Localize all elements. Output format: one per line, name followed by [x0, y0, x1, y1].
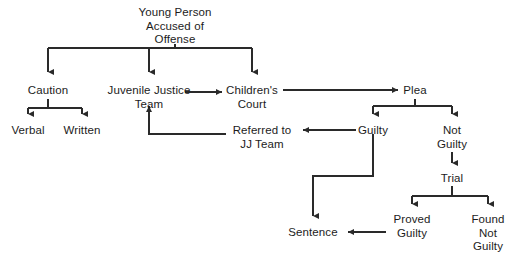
- node-juvenile-justice-team: Juvenile Justice Team: [108, 84, 191, 111]
- node-found-not-guilty: Found Not Guilty: [471, 213, 504, 254]
- node-guilty: Guilty: [358, 124, 388, 138]
- node-young-person-accused: Young Person Accused of Offense: [138, 6, 211, 47]
- node-caution: Caution: [28, 84, 68, 98]
- node-written: Written: [64, 124, 101, 138]
- node-plea: Plea: [403, 84, 426, 98]
- node-trial: Trial: [441, 172, 463, 186]
- node-verbal: Verbal: [11, 124, 44, 138]
- flowchart-diagram: Young Person Accused of Offense Caution …: [0, 0, 521, 270]
- node-sentence: Sentence: [288, 226, 337, 240]
- node-not-guilty: Not Guilty: [437, 124, 467, 151]
- node-referred-to-jj-team: Referred to JJ Team: [233, 124, 292, 151]
- node-proved-guilty: Proved Guilty: [393, 213, 430, 240]
- edge-guilty-to-sentence: [313, 134, 373, 216]
- node-childrens-court: Children's Court: [226, 84, 278, 111]
